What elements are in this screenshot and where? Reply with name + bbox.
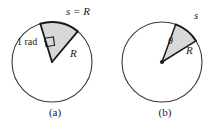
panel-a-diagram: s = R R 1 rad	[0, 0, 110, 112]
radius-label-a: R	[69, 47, 77, 59]
panel-b-diagram: s R θ	[110, 0, 220, 112]
panel-a-caption: (a)	[0, 105, 110, 119]
panel-b: s R θ (b)	[110, 0, 220, 131]
angle-label-a: 1 rad	[17, 36, 37, 47]
panel-b-caption: (b)	[110, 105, 220, 119]
arc-label-a: s = R	[66, 5, 90, 17]
panel-a: s = R R 1 rad (a)	[0, 0, 110, 131]
radius-label-b: R	[185, 44, 193, 56]
arc-label-b: s	[194, 9, 198, 21]
center-dot-b	[160, 60, 164, 64]
angle-label-b: θ	[168, 35, 173, 46]
radian-measure-figure: s = R R 1 rad (a) s R θ (b)	[0, 0, 220, 131]
